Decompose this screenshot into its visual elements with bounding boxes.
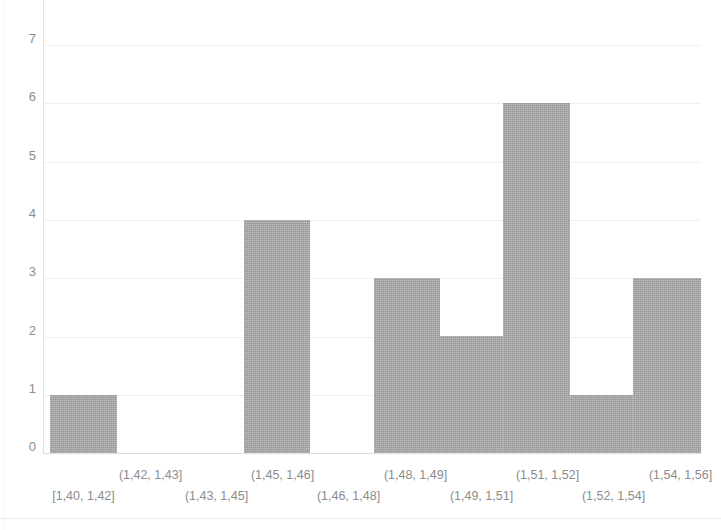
x-axis-tick-bin-9: (1,52, 1,54] <box>546 490 681 503</box>
x-axis-tick-bin-10: (1,54, 1,56] <box>613 469 721 482</box>
histogram-bar <box>633 278 701 453</box>
x-axis-tick-bin-3: (1,43, 1,45] <box>149 490 284 503</box>
histogram-bar <box>374 278 440 453</box>
histogram-bar <box>503 103 570 453</box>
page-bottom-border <box>0 518 721 519</box>
histogram-bar <box>440 336 503 453</box>
x-axis-tick-labels: [1,40, 1,42] (1,42, 1,43] (1,43, 1,45] (… <box>0 463 721 523</box>
histogram-bar <box>50 395 117 453</box>
histogram-chart: 8 7 6 5 4 3 2 1 0 [1,40, 1,42] (1,42, 1,… <box>0 0 721 530</box>
bars-layer <box>0 0 721 530</box>
x-axis-tick-bin-4: (1,45, 1,46] <box>215 469 350 482</box>
x-axis-tick-bin-5: (1,46, 1,48] <box>281 490 416 503</box>
histogram-bar <box>570 395 633 453</box>
x-axis-tick-bin-8: (1,51, 1,52] <box>480 469 615 482</box>
x-axis-tick-bin-1: [1,40, 1,42] <box>16 490 151 503</box>
x-axis-tick-bin-7: (1,49, 1,51] <box>414 490 549 503</box>
x-axis-tick-bin-2: (1,42, 1,43] <box>83 469 218 482</box>
histogram-bar <box>244 220 310 453</box>
x-axis-tick-bin-6: (1,48, 1,49] <box>348 469 483 482</box>
